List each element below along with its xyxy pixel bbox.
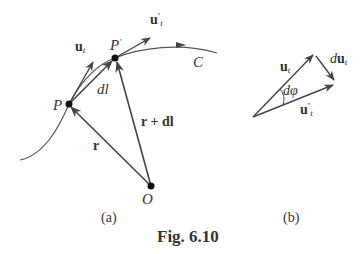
label-b-du-t: dut: [330, 52, 347, 67]
point-o: [148, 183, 155, 190]
point-p: [66, 101, 73, 108]
label-r-plus-dl: r + dl: [141, 115, 174, 129]
label-u-t: ut: [75, 40, 85, 55]
label-curve-c: C: [193, 55, 203, 70]
figure-canvas: [0, 0, 363, 254]
label-dl: dl: [97, 82, 109, 97]
label-p: P: [53, 98, 62, 113]
curve-c: [20, 47, 217, 160]
point-p-prime: [112, 55, 119, 62]
label-b-u-t: ut: [280, 60, 290, 75]
label-r: r: [93, 139, 99, 153]
vector-r: [71, 107, 151, 186]
label-o: O: [142, 192, 153, 207]
panel-a-label: (a): [101, 210, 117, 226]
label-b-u-t-prime: u't: [300, 103, 313, 118]
label-u-t-prime: u't: [150, 13, 163, 28]
label-b-angle: dφ: [283, 84, 298, 98]
label-p-prime: P': [110, 38, 121, 53]
panel-b-label: (b): [283, 210, 299, 226]
figure-caption: Fig. 6.10: [157, 227, 219, 247]
